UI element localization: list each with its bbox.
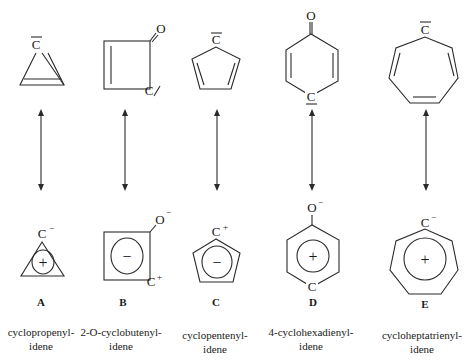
heptagon-ring	[389, 37, 458, 103]
structure-a-bottom: C − +	[21, 223, 64, 276]
svg-text:−: −	[431, 212, 436, 222]
resonance-diagram: C C − + A O C O − − C +	[0, 0, 473, 362]
structure-d-bottom: O − + C	[287, 197, 339, 294]
svg-text:+: +	[420, 251, 429, 268]
svg-text:+: +	[157, 272, 162, 282]
structure-c-bottom: C + −	[193, 222, 240, 282]
structure-e-bottom: C − +	[390, 212, 458, 294]
name-c: cyclopentenyl- idene	[160, 328, 270, 356]
svg-text:O: O	[306, 8, 315, 23]
lone-pair-slash	[154, 86, 160, 96]
structure-c-top: C	[192, 32, 240, 89]
structure-b-bottom: O − − C +	[104, 207, 171, 289]
double-bond	[448, 53, 454, 76]
name-e: cycloheptatrienyl- idene	[367, 328, 473, 356]
svg-text:−: −	[212, 254, 221, 271]
svg-text:+: +	[38, 254, 47, 271]
svg-text:C: C	[421, 215, 430, 230]
svg-text:+: +	[223, 222, 228, 232]
pentagon-ring	[192, 47, 240, 89]
svg-text:C: C	[38, 226, 47, 241]
resonance-arrow-c	[214, 109, 220, 191]
structure-a-top: C	[7, 5, 64, 85]
svg-text:C: C	[147, 274, 156, 289]
svg-text:−: −	[166, 207, 171, 217]
svg-text:C: C	[212, 32, 221, 47]
label-c: C	[212, 296, 220, 308]
svg-text:−: −	[49, 223, 54, 233]
svg-text:C: C	[145, 83, 154, 98]
hexagon-ring	[286, 34, 338, 96]
name-d: 4-cyclohexadienyl- idene	[256, 325, 366, 353]
svg-text:−: −	[122, 248, 131, 265]
resonance-arrow-a	[38, 109, 44, 191]
structure-b-top: O C	[104, 21, 166, 98]
double-bond	[394, 53, 400, 76]
svg-text:C: C	[212, 224, 221, 239]
svg-text:C: C	[307, 89, 316, 104]
svg-text:O: O	[307, 200, 316, 215]
resonance-arrow-b	[122, 109, 128, 191]
structure-d-top: O C	[286, 8, 338, 104]
svg-text:O: O	[155, 212, 164, 227]
svg-text:C: C	[308, 279, 317, 294]
svg-text:+: +	[308, 248, 317, 265]
resonance-arrow-d	[309, 109, 315, 191]
svg-text:C: C	[421, 22, 430, 37]
triangle-ring	[20, 53, 64, 85]
structure-e-top: C	[389, 22, 458, 103]
label-a: A	[37, 296, 45, 308]
double-bond	[228, 63, 235, 85]
label-b: B	[119, 296, 127, 308]
label-d: D	[309, 296, 317, 308]
svg-text:−: −	[318, 197, 323, 207]
svg-text:O: O	[156, 21, 165, 36]
label-e: E	[421, 298, 428, 310]
resonance-arrow-e	[423, 109, 429, 191]
atom-c: C	[32, 37, 41, 52]
